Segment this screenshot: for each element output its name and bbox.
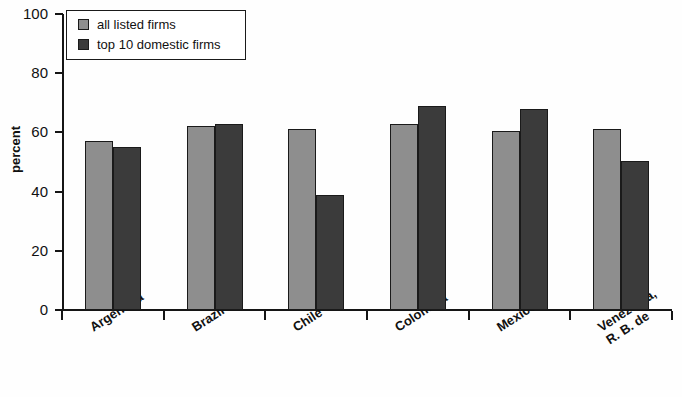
y-tick-label: 80	[2, 65, 48, 80]
x-tick-mark	[671, 311, 673, 320]
bar	[520, 109, 548, 310]
y-tick-label: 40	[2, 184, 48, 199]
bar-chart: percent 100806040200 ArgentinaBrazilChil…	[0, 0, 682, 397]
bar	[316, 195, 344, 310]
bar	[85, 141, 113, 310]
bar	[288, 129, 316, 310]
bar	[621, 161, 649, 310]
x-tick-mark	[264, 311, 266, 320]
x-tick-mark	[468, 311, 470, 320]
bar	[215, 124, 243, 310]
x-tick-mark	[61, 311, 63, 320]
legend-swatch-icon	[78, 39, 89, 50]
y-tick-label: 100	[2, 6, 48, 21]
legend-item-top-10-domestic-firms: top 10 domestic firms	[78, 38, 221, 51]
bar	[593, 129, 621, 310]
bar	[492, 131, 520, 310]
y-tick-label: 60	[2, 124, 48, 139]
legend-item-all-listed-firms: all listed firms	[78, 18, 176, 31]
legend-label: top 10 domestic firms	[97, 38, 221, 51]
x-tick-mark	[163, 311, 165, 320]
legend-swatch-icon	[78, 19, 89, 30]
x-tick-mark	[366, 311, 368, 320]
bar	[390, 124, 418, 310]
y-tick-label: 20	[2, 243, 48, 258]
legend-label: all listed firms	[97, 18, 176, 31]
bar	[418, 106, 446, 310]
legend: all listed firms top 10 domestic firms	[66, 10, 246, 60]
y-tick-label: 0	[2, 302, 48, 317]
x-tick-mark	[569, 311, 571, 320]
bar	[113, 147, 141, 310]
bar	[187, 126, 215, 310]
